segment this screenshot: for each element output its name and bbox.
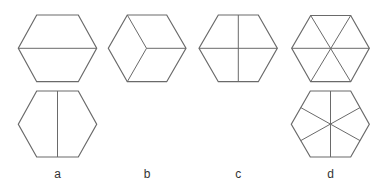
- label-a: a: [54, 167, 61, 181]
- hexagon-figure-b-top: [108, 15, 186, 82]
- label-c: c: [235, 167, 241, 181]
- label-b: b: [144, 167, 151, 181]
- figures-group: [18, 15, 369, 157]
- division-line: [127, 15, 146, 48]
- division-line: [127, 48, 146, 81]
- label-d: d: [327, 167, 334, 181]
- hexagon-figure-c-top: [199, 15, 277, 82]
- hexagon-figure-d-top: [292, 16, 370, 82]
- hexagon-figure-a-top: [18, 15, 96, 82]
- hexagon-figure-a-bottom: [18, 91, 96, 157]
- hexagon-division-diagram: a b c d: [0, 0, 388, 185]
- hexagon-figure-d-bottom: [291, 91, 369, 157]
- labels-group: a b c d: [54, 167, 334, 181]
